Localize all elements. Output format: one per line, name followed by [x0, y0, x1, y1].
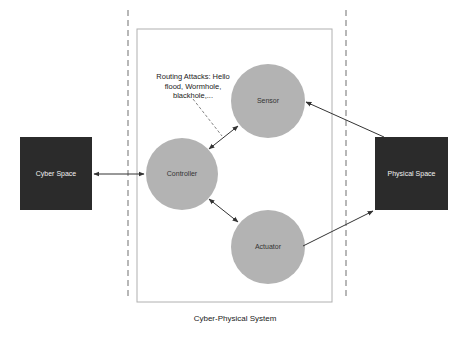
controller-label: Controller [146, 170, 218, 177]
edge-controller-actuator [209, 199, 238, 222]
routing-attacks-annotation: Routing Attacks: Hello flood, Wormhole, … [153, 72, 233, 101]
cyber-space-label: Cyber Space [20, 170, 92, 177]
edge-actuator-physical [303, 211, 373, 246]
edge-physical-sensor [306, 102, 384, 137]
sensor-label: Sensor [231, 97, 305, 104]
edge-controller-sensor [209, 126, 238, 149]
cyber-physical-system-label: Cyber-Physical System [175, 314, 295, 323]
physical-space-label: Physical Space [375, 170, 448, 177]
attack-annotation-line [193, 99, 222, 136]
actuator-label: Actuator [231, 243, 305, 250]
